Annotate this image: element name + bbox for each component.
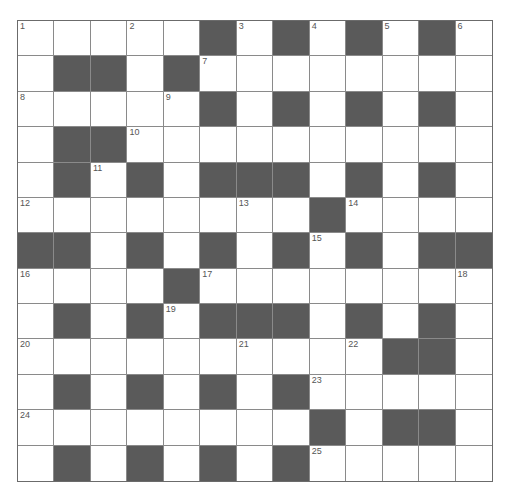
letter-cell[interactable]: 16 [18,269,54,304]
letter-cell[interactable] [237,269,273,304]
letter-cell[interactable] [54,198,90,233]
letter-cell[interactable] [18,163,54,198]
letter-cell[interactable] [237,127,273,162]
letter-cell[interactable] [310,304,346,339]
letter-cell[interactable] [91,375,127,410]
letter-cell[interactable] [237,375,273,410]
letter-cell[interactable] [91,92,127,127]
letter-cell[interactable] [419,446,455,481]
letter-cell[interactable] [200,127,236,162]
letter-cell[interactable]: 12 [18,198,54,233]
letter-cell[interactable]: 18 [456,269,492,304]
letter-cell[interactable]: 14 [346,198,382,233]
letter-cell[interactable] [419,269,455,304]
letter-cell[interactable] [200,339,236,374]
letter-cell[interactable] [127,198,163,233]
letter-cell[interactable] [54,92,90,127]
letter-cell[interactable] [310,163,346,198]
letter-cell[interactable] [237,92,273,127]
letter-cell[interactable]: 24 [18,410,54,445]
letter-cell[interactable] [456,92,492,127]
letter-cell[interactable] [91,339,127,374]
letter-cell[interactable] [310,339,346,374]
letter-cell[interactable] [91,304,127,339]
letter-cell[interactable] [164,410,200,445]
letter-cell[interactable] [91,446,127,481]
letter-cell[interactable] [164,163,200,198]
letter-cell[interactable] [164,375,200,410]
letter-cell[interactable]: 5 [383,21,419,56]
letter-cell[interactable]: 4 [310,21,346,56]
letter-cell[interactable] [383,304,419,339]
letter-cell[interactable] [456,304,492,339]
letter-cell[interactable]: 17 [200,269,236,304]
letter-cell[interactable] [91,410,127,445]
letter-cell[interactable] [383,233,419,268]
letter-cell[interactable] [54,410,90,445]
letter-cell[interactable] [164,21,200,56]
letter-cell[interactable] [419,198,455,233]
letter-cell[interactable] [237,410,273,445]
letter-cell[interactable] [383,92,419,127]
letter-cell[interactable] [346,127,382,162]
letter-cell[interactable]: 1 [18,21,54,56]
letter-cell[interactable] [456,410,492,445]
letter-cell[interactable]: 19 [164,304,200,339]
letter-cell[interactable] [127,56,163,91]
letter-cell[interactable] [54,21,90,56]
letter-cell[interactable] [164,198,200,233]
letter-cell[interactable] [200,410,236,445]
letter-cell[interactable]: 2 [127,21,163,56]
letter-cell[interactable] [91,269,127,304]
letter-cell[interactable] [91,198,127,233]
letter-cell[interactable] [346,375,382,410]
letter-cell[interactable]: 22 [346,339,382,374]
letter-cell[interactable]: 25 [310,446,346,481]
letter-cell[interactable] [383,269,419,304]
letter-cell[interactable] [18,56,54,91]
letter-cell[interactable] [54,339,90,374]
letter-cell[interactable]: 15 [310,233,346,268]
letter-cell[interactable] [419,56,455,91]
letter-cell[interactable]: 11 [91,163,127,198]
letter-cell[interactable] [273,339,309,374]
letter-cell[interactable] [54,269,90,304]
letter-cell[interactable] [18,446,54,481]
letter-cell[interactable] [456,339,492,374]
letter-cell[interactable] [273,410,309,445]
letter-cell[interactable] [346,410,382,445]
letter-cell[interactable]: 10 [127,127,163,162]
letter-cell[interactable] [456,163,492,198]
letter-cell[interactable] [310,56,346,91]
letter-cell[interactable]: 7 [200,56,236,91]
letter-cell[interactable] [127,339,163,374]
letter-cell[interactable] [383,198,419,233]
letter-cell[interactable] [346,269,382,304]
letter-cell[interactable] [127,410,163,445]
letter-cell[interactable]: 20 [18,339,54,374]
letter-cell[interactable] [383,446,419,481]
letter-cell[interactable] [18,127,54,162]
letter-cell[interactable] [456,198,492,233]
letter-cell[interactable] [383,375,419,410]
letter-cell[interactable] [91,21,127,56]
letter-cell[interactable] [18,304,54,339]
letter-cell[interactable]: 9 [164,92,200,127]
letter-cell[interactable] [310,92,346,127]
letter-cell[interactable] [310,269,346,304]
letter-cell[interactable] [419,127,455,162]
letter-cell[interactable] [237,56,273,91]
letter-cell[interactable] [164,446,200,481]
letter-cell[interactable] [419,375,455,410]
letter-cell[interactable]: 6 [456,21,492,56]
letter-cell[interactable]: 13 [237,198,273,233]
letter-cell[interactable] [383,127,419,162]
letter-cell[interactable] [456,127,492,162]
letter-cell[interactable] [346,56,382,91]
letter-cell[interactable] [127,92,163,127]
letter-cell[interactable] [273,127,309,162]
letter-cell[interactable] [310,127,346,162]
letter-cell[interactable] [456,375,492,410]
letter-cell[interactable] [237,233,273,268]
letter-cell[interactable]: 21 [237,339,273,374]
